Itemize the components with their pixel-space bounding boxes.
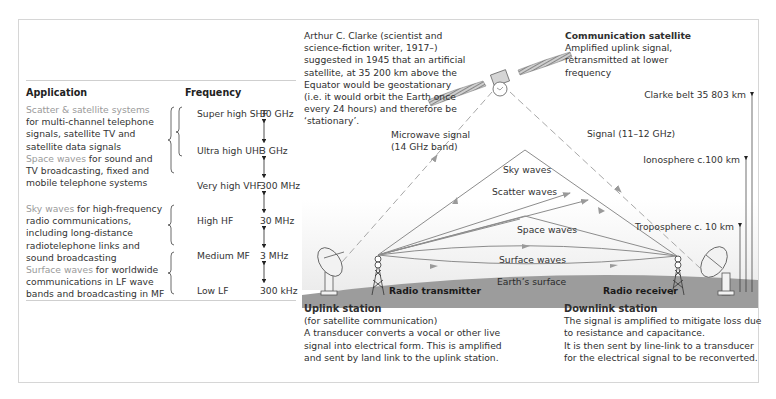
note-line: ‘stationary’. (304, 115, 465, 127)
downlink-line: The signal is amplified to mitigate loss… (564, 315, 762, 327)
bracket-shf-uhf (176, 107, 182, 156)
label-clarke-belt: Clarke belt 35 803 km (644, 89, 746, 100)
bracket-sky (168, 205, 174, 245)
note-line: Equator would be geostationary (304, 79, 465, 91)
label-radio-transmitter: Radio transmitter (389, 285, 481, 296)
bracket-surface (168, 252, 174, 294)
note-line: satellite, at 35 200 km above the (304, 67, 465, 79)
label-space-waves: Space waves (517, 224, 577, 235)
downlink-line: for the electrical signal to be reconver… (564, 352, 762, 364)
uplink-line: signal into electrical form. This is amp… (304, 340, 502, 352)
downlink-arrow (618, 189, 621, 192)
note-line: Arthur C. Clarke (scientist and (304, 30, 465, 42)
uplink-line: (for satellite communication) (304, 315, 502, 327)
downlink-caption: Downlink station The signal is amplified… (564, 303, 762, 364)
uplink-caption: Uplink station (for satellite communicat… (304, 303, 502, 364)
label-radio-receiver: Radio receiver (603, 285, 678, 296)
label-ionosphere: Ionosphere c.100 km (643, 154, 740, 165)
downlink-line: to resistance and capacitance. (564, 327, 762, 339)
label-troposphere: Troposphere c. 10 km (634, 221, 734, 232)
satellite-dish (493, 82, 507, 96)
uplink-title: Uplink station (304, 303, 502, 315)
downlink-title: Downlink station (564, 303, 762, 315)
label-sky-waves: Sky waves (503, 164, 551, 175)
note-line: every 24 hours) and therefore be (304, 103, 465, 115)
satellite-caption: Communication satellite Amplified uplink… (565, 30, 691, 79)
clarke-note: Arthur C. Clarke (scientist and science-… (304, 30, 465, 128)
solar-panel-right (518, 52, 572, 75)
downlink-line: It is then sent by line-link to a transd… (564, 340, 762, 352)
satellite-title: Communication satellite (565, 30, 691, 42)
note-line: science-fiction writer, 1917–) (304, 42, 465, 54)
satellite-line: frequency (565, 67, 691, 79)
satellite-line: Amplified uplink signal, (565, 42, 691, 54)
note-line: suggested in 1945 that an artificial (304, 54, 465, 66)
bracket-scatter (168, 107, 174, 173)
label-microwave-2: (14 GHz band) (391, 141, 458, 152)
band-brackets (168, 107, 182, 294)
uplink-line: A transducer converts a vocal or other l… (304, 327, 502, 339)
label-surface-waves: Surface waves (499, 254, 566, 265)
label-downlink-signal: Signal (11–12 GHz) (587, 128, 675, 139)
satellite-line: retransmitted at lower (565, 54, 691, 66)
uplink-arrow (435, 155, 437, 158)
label-scatter-waves: Scatter waves (492, 186, 557, 197)
uplink-line: and sent by land link to the uplink stat… (304, 352, 502, 364)
label-earth-surface: Earth’s surface (497, 276, 567, 287)
note-line: (i.e. it would orbit the Earth once (304, 91, 465, 103)
label-microwave-1: Microwave signal (391, 129, 470, 140)
